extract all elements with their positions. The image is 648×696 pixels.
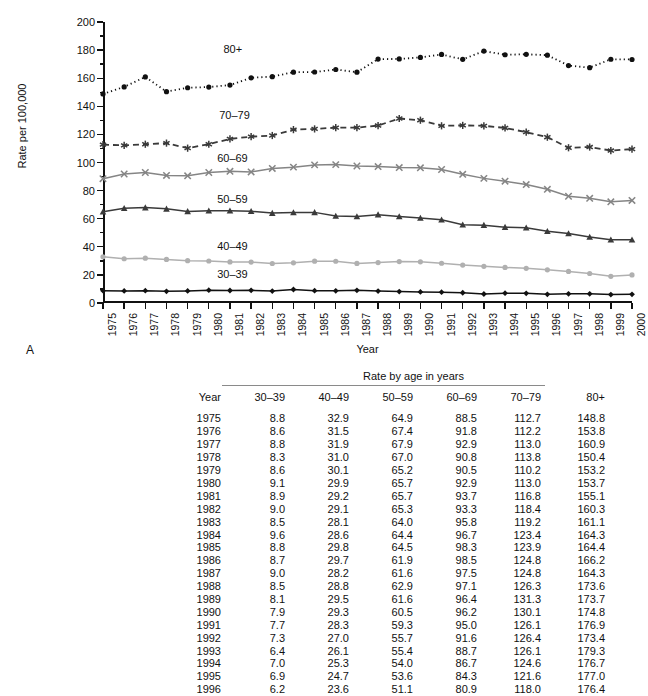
y-tick-label: 200: [77, 17, 95, 28]
series-marker: [354, 287, 360, 293]
x-tick: [166, 303, 167, 309]
x-tick: [250, 303, 251, 309]
table-cell-rate: 7.9: [221, 606, 285, 619]
table-cell-rate: 8.7: [221, 554, 285, 567]
series-marker: [312, 69, 317, 74]
x-tick-label: 1978: [170, 313, 181, 336]
table-cell-year: 1982: [175, 502, 221, 515]
x-tick: [462, 303, 463, 309]
table-row: 19947.025.354.086.7124.6176.7: [175, 657, 605, 670]
table-cell-rate: 160.3: [541, 502, 605, 515]
table-row: 19936.426.155.488.7126.1179.3: [175, 644, 605, 657]
table-cell-rate: 27.0: [285, 631, 349, 644]
series-marker: [354, 70, 359, 75]
y-tick-label: 120: [77, 129, 95, 140]
series-marker: [502, 290, 508, 296]
series-label-50-59: 50–59: [215, 193, 250, 205]
table-cell-rate: 166.2: [541, 554, 605, 567]
table-cell-year: 1977: [175, 438, 221, 451]
table-cell-rate: 153.8: [541, 425, 605, 438]
series-marker: [375, 260, 380, 265]
table-header-rule: [222, 385, 545, 386]
x-tick-label: 1991: [446, 313, 457, 336]
table-cell-rate: 53.6: [349, 670, 413, 683]
table-row: 19758.832.964.988.5112.7148.8: [175, 412, 605, 425]
series-marker: [270, 261, 275, 266]
table-cell-rate: 126.4: [477, 631, 541, 644]
table-cell-rate: 121.6: [477, 670, 541, 683]
table-row: 19849.628.664.496.7123.4164.3: [175, 528, 605, 541]
table-row: 19829.029.165.393.3118.4160.3: [175, 502, 605, 515]
series-plot: [103, 22, 632, 303]
table-cell-rate: 113.0: [477, 477, 541, 490]
table-cell-rate: 64.5: [349, 541, 413, 554]
table-cell-year: 1979: [175, 464, 221, 477]
x-tick: [187, 303, 188, 309]
table-cell-rate: 9.0: [221, 502, 285, 515]
table-cell-rate: 177.0: [541, 670, 605, 683]
table-cell-rate: 176.7: [541, 657, 605, 670]
series-marker: [439, 261, 444, 266]
series-marker: [524, 52, 529, 57]
x-tick-label: 1999: [615, 313, 626, 336]
series-marker: [375, 288, 381, 294]
series-marker: [439, 289, 445, 295]
x-tick-label: 1995: [530, 313, 541, 336]
table-cell-rate: 30.1: [285, 464, 349, 477]
series-marker: [270, 74, 275, 79]
series-marker: [481, 291, 487, 297]
table-cell-rate: 153.7: [541, 477, 605, 490]
table-cell-rate: 84.3: [413, 670, 477, 683]
table-cell-rate: 51.1: [349, 683, 413, 696]
x-tick-label: 1988: [382, 313, 393, 336]
series-marker: [122, 84, 127, 89]
table-cell-rate: 118.4: [477, 502, 541, 515]
series-marker: [227, 288, 233, 294]
table-cell-rate: 32.9: [285, 412, 349, 425]
series-line: [103, 290, 632, 295]
x-axis-label: Year: [103, 343, 632, 355]
x-tick: [145, 303, 146, 309]
table-cell-rate: 61.6: [349, 567, 413, 580]
series-line: [103, 119, 632, 151]
table-cell-year: 1990: [175, 606, 221, 619]
table-cell-rate: 88.7: [413, 644, 477, 657]
x-tick-label: 1997: [573, 313, 584, 336]
table-cell-rate: 29.2: [285, 490, 349, 503]
y-tick-label: 80: [83, 185, 95, 196]
x-tick-label: 1994: [509, 313, 520, 336]
table-cell-rate: 174.8: [541, 606, 605, 619]
series-marker: [418, 55, 423, 60]
table-row: 19838.528.164.095.8119.2161.1: [175, 515, 605, 528]
x-tick: [102, 303, 103, 309]
table-column-header: 80+: [541, 390, 605, 412]
series-marker: [164, 288, 170, 294]
x-tick: [229, 303, 230, 309]
table-cell-rate: 97.1: [413, 580, 477, 593]
table-column-header: 50–59: [349, 390, 413, 412]
table-row: 19956.924.753.684.3121.6177.0: [175, 670, 605, 683]
y-tick-label: 180: [77, 45, 95, 56]
table-cell-rate: 90.5: [413, 464, 477, 477]
table-cell-rate: 23.6: [285, 683, 349, 696]
series-marker: [100, 254, 105, 259]
y-tick-label: 0: [89, 298, 95, 309]
table-cell-rate: 9.6: [221, 528, 285, 541]
series-label-80-: 80+: [221, 43, 244, 55]
table-row: 19778.831.967.992.9113.0160.9: [175, 438, 605, 451]
series-marker: [333, 67, 338, 72]
table-cell-year: 1976: [175, 425, 221, 438]
x-tick: [441, 303, 442, 309]
table-cell-rate: 55.4: [349, 644, 413, 657]
series-marker: [523, 290, 529, 296]
table-cell-rate: 28.3: [285, 618, 349, 631]
series-marker: [269, 288, 275, 294]
table-cell-rate: 93.3: [413, 502, 477, 515]
table-cell-rate: 124.8: [477, 567, 541, 580]
table-cell-rate: 98.3: [413, 541, 477, 554]
table-cell-rate: 6.2: [221, 683, 285, 696]
series-marker: [481, 48, 486, 53]
series-marker: [249, 260, 254, 265]
x-tick-label: 1980: [213, 313, 224, 336]
x-tick-label: 1983: [276, 313, 287, 336]
